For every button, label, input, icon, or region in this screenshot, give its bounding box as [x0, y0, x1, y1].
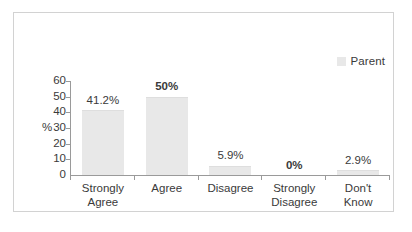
y-tick-mark-40 [66, 112, 70, 113]
bar-value-label-disagree: 5.9% [199, 150, 263, 162]
x-category-line-2: Disagree [262, 195, 326, 209]
x-category-line-2: Know [326, 195, 390, 209]
x-category-line-1: Agree [135, 181, 199, 195]
bar-agree[interactable] [146, 97, 188, 175]
x-category-line-1: Disagree [199, 181, 263, 195]
bar-slot-strongly-disagree: 0% [262, 81, 326, 175]
x-axis-category-labels: Strongly Agree Agree Disagree Strongly D… [71, 181, 390, 210]
bar-slot-disagree: 5.9% [199, 81, 263, 175]
bar-value-label-dont-know: 2.9% [326, 155, 390, 167]
chart-frame: Parent 60 50 40 30 20 10 0 % 41.2% 50% [13, 12, 394, 212]
bar-slot-strongly-agree: 41.2% [71, 81, 135, 175]
x-axis-ticks [71, 176, 390, 180]
x-tick-cell-2 [135, 176, 199, 180]
y-tick-label-50: 50 [53, 91, 66, 103]
x-category-line-1: Don't [326, 181, 390, 195]
bar-strongly-agree[interactable] [82, 110, 124, 175]
y-tick-mark-50 [66, 97, 70, 98]
y-tick-label-60: 60 [53, 75, 66, 87]
x-tick-cell-4 [262, 176, 326, 180]
y-tick-label-20: 20 [53, 138, 66, 150]
bars-container: 41.2% 50% 5.9% 0% 2.9% [71, 81, 390, 175]
legend-label-parent: Parent [351, 55, 385, 67]
x-tick-cell-5 [326, 176, 390, 180]
y-axis-title: % [42, 122, 52, 134]
x-tick-mark-5 [389, 176, 390, 180]
y-tick-label-30: 30 [53, 122, 66, 134]
x-category-dont-know: Don't Know [326, 181, 390, 210]
chart-legend: Parent [337, 55, 385, 67]
x-tick-cell-1 [71, 176, 135, 180]
x-tick-cell-3 [199, 176, 263, 180]
y-tick-mark-10 [66, 159, 70, 160]
x-category-line-1: Strongly [71, 181, 135, 195]
y-tick-label-10: 10 [53, 154, 66, 166]
x-category-strongly-disagree: Strongly Disagree [262, 181, 326, 210]
x-category-line-1: Strongly [262, 181, 326, 195]
bar-value-label-strongly-agree: 41.2% [71, 95, 135, 107]
bar-slot-dont-know: 2.9% [326, 81, 390, 175]
x-category-agree: Agree [135, 181, 199, 210]
y-tick-label-40: 40 [53, 107, 66, 119]
y-tick-label-0: 0 [60, 169, 66, 181]
bar-value-label-agree: 50% [135, 81, 199, 93]
legend-swatch-parent [337, 57, 346, 66]
x-category-disagree: Disagree [199, 181, 263, 210]
y-tick-mark-30 [66, 128, 70, 129]
bar-value-label-strongly-disagree: 0% [262, 160, 326, 172]
bar-slot-agree: 50% [135, 81, 199, 175]
bar-disagree[interactable] [209, 166, 251, 175]
y-tick-mark-60 [66, 81, 70, 82]
y-tick-mark-20 [66, 144, 70, 145]
x-category-line-2: Agree [71, 195, 135, 209]
x-category-strongly-agree: Strongly Agree [71, 181, 135, 210]
plot-area: 60 50 40 30 20 10 0 % 41.2% 50% 5.9 [42, 81, 390, 177]
